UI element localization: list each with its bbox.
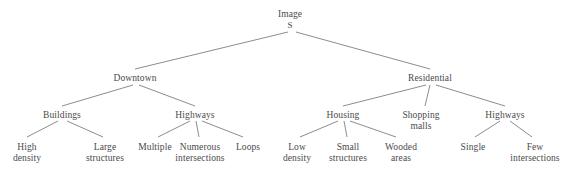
tree-edge (510, 121, 532, 137)
tree-edge (300, 121, 338, 137)
tree-edge (202, 121, 243, 137)
tree-edge (196, 121, 199, 137)
tree-edge (158, 121, 190, 137)
tree-node-highways-res: Highways (485, 110, 524, 121)
tree-node-label: Highways (175, 110, 214, 120)
tree-node-numerous-int: Numerous intersections (175, 142, 224, 163)
tree-edge (135, 32, 288, 69)
tree-node-label: Multiple (138, 142, 172, 152)
tree-node-label: Buildings (43, 110, 81, 120)
tree-diagram: ImageSDowntownResidentialBuildingsHighwa… (0, 0, 576, 172)
tree-node-label: Housing (327, 110, 360, 120)
tree-node-high-density: High density (13, 142, 41, 163)
tree-edge (139, 85, 195, 106)
tree-node-few-int: Few intersections (510, 142, 559, 163)
tree-node-label: Low density (283, 142, 311, 163)
tree-node-wooded-areas: Wooded areas (385, 142, 417, 163)
tree-node-loops: Loops (236, 142, 260, 153)
tree-edge (475, 121, 500, 137)
tree-node-label: Image (278, 9, 302, 19)
tree-node-multiple: Multiple (138, 142, 172, 153)
tree-node-label: Single (461, 142, 486, 152)
tree-edge (296, 32, 430, 69)
tree-node-label: Residential (408, 73, 452, 83)
tree-edge (62, 85, 133, 106)
tree-node-buildings: Buildings (43, 110, 81, 121)
tree-node-label: Large structures (86, 142, 124, 163)
tree-node-downtown: Downtown (113, 73, 156, 84)
tree-edge (425, 85, 430, 106)
tree-node-low-density: Low density (283, 142, 311, 163)
tree-node-single: Single (461, 142, 486, 153)
tree-node-label: Small structures (329, 142, 367, 163)
tree-edge (436, 85, 505, 106)
tree-node-sublabel: S (278, 20, 302, 30)
tree-node-label: Loops (236, 142, 260, 152)
tree-node-large-struct: Large structures (86, 142, 124, 163)
tree-node-highways-dt: Highways (175, 110, 214, 121)
tree-node-label: Shopping malls (402, 110, 439, 131)
tree-node-label: Numerous intersections (175, 142, 224, 163)
tree-node-root: ImageS (278, 9, 302, 30)
tree-edge (344, 121, 347, 137)
tree-edge (350, 121, 396, 137)
tree-node-label: Wooded areas (385, 142, 417, 163)
tree-node-small-struct: Small structures (329, 142, 367, 163)
tree-node-label: Few intersections (510, 142, 559, 163)
tree-node-housing: Housing (327, 110, 360, 121)
tree-edge (67, 121, 103, 137)
tree-node-label: Highways (485, 110, 524, 120)
tree-edge (27, 121, 58, 137)
tree-node-label: High density (13, 142, 41, 163)
tree-edge (343, 85, 426, 106)
tree-node-shopping: Shopping malls (402, 110, 439, 131)
tree-node-label: Downtown (113, 73, 156, 83)
tree-node-residential: Residential (408, 73, 452, 84)
